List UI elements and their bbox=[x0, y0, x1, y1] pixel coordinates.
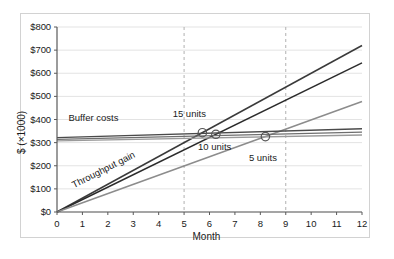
y-axis-tick-label: $400 bbox=[11, 114, 51, 125]
annotation-buffer-costs: Buffer costs bbox=[68, 112, 118, 123]
y-axis-tick-label: $200 bbox=[11, 160, 51, 171]
y-axis-tick-label: $600 bbox=[11, 67, 51, 78]
y-axis-tick-label: $800 bbox=[11, 21, 51, 32]
x-axis-tick-label: 1 bbox=[72, 218, 92, 229]
x-axis-tick-label: 9 bbox=[276, 218, 296, 229]
x-axis-tick-label: 5 bbox=[174, 218, 194, 229]
x-axis-tick-label: 4 bbox=[149, 218, 169, 229]
series-line bbox=[57, 46, 362, 213]
x-axis-tick-label: 7 bbox=[225, 218, 245, 229]
x-axis-tick-label: 3 bbox=[123, 218, 143, 229]
x-axis-tick-label: 10 bbox=[301, 218, 321, 229]
y-axis-tick-label: $500 bbox=[11, 90, 51, 101]
x-axis-tick-label: 12 bbox=[352, 218, 372, 229]
y-axis-tick-label: $700 bbox=[11, 44, 51, 55]
x-axis-tick-label: 6 bbox=[200, 218, 220, 229]
x-axis-tick-label: 11 bbox=[327, 218, 347, 229]
annotation-units-15: 15 units bbox=[173, 108, 206, 119]
annotation-units-10: 10 units bbox=[198, 141, 231, 152]
y-axis-tick-label: $100 bbox=[11, 183, 51, 194]
line-chart: $ (×1000) Month $0$100$200$300$400$500$6… bbox=[0, 0, 394, 259]
x-axis-tick-label: 8 bbox=[250, 218, 270, 229]
x-axis-tick-label: 2 bbox=[98, 218, 118, 229]
y-axis-tick-label: $0 bbox=[11, 206, 51, 217]
annotation-units-5: 5 units bbox=[249, 152, 277, 163]
y-axis-tick-label: $300 bbox=[11, 137, 51, 148]
x-axis-tick-label: 0 bbox=[47, 218, 67, 229]
